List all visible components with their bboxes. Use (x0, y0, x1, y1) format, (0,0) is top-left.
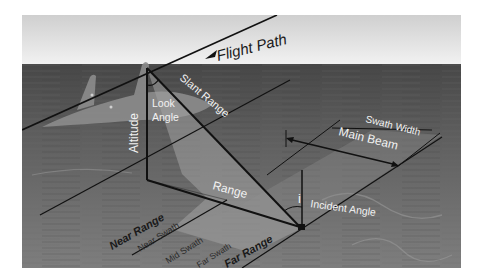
incident-symbol-label: i (298, 191, 301, 206)
look-angle-label-line1: Look (152, 97, 176, 109)
radar-geometry-figure: Flight Path Slant Range Look Angle Altit… (22, 15, 461, 268)
diagram-canvas: Flight Path Slant Range Look Angle Altit… (22, 15, 461, 268)
altitude-label: Altitude (127, 113, 141, 153)
look-angle-label-line2: Angle (152, 111, 179, 123)
